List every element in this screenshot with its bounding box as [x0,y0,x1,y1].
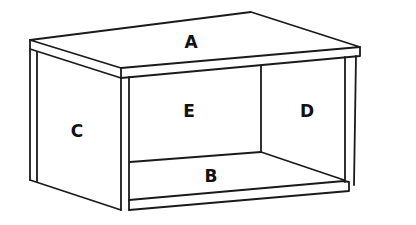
panel-e-back [130,66,261,162]
label-d: D [300,101,314,121]
label-a: A [184,32,198,52]
label-b: B [205,166,218,186]
label-e: E [183,101,195,121]
label-c: C [71,121,83,141]
panel-b-bottom [129,181,349,210]
box-diagram: A E D C B [0,0,416,225]
